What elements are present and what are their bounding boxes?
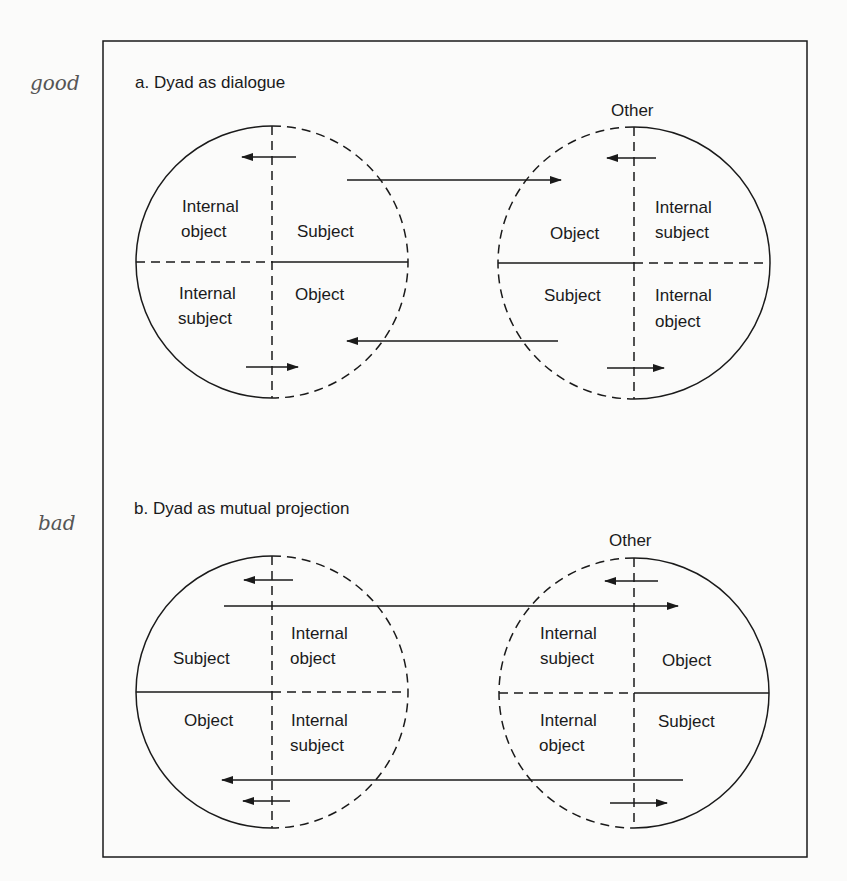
b-right-br: Subject bbox=[658, 712, 715, 731]
a-other-label: Other bbox=[611, 101, 654, 120]
b-right-tl-line2: subject bbox=[540, 649, 594, 668]
panel-a-self-circle bbox=[136, 126, 408, 398]
a-left-bl-line1: Internal bbox=[179, 284, 236, 303]
panel-b-self-circle bbox=[136, 556, 408, 828]
b-left-br-line1: Internal bbox=[291, 711, 348, 730]
a-left-tr: Subject bbox=[297, 222, 354, 241]
b-left-tl: Subject bbox=[173, 649, 230, 668]
a-right-bl: Subject bbox=[544, 286, 601, 305]
a-right-br-line2: object bbox=[655, 312, 701, 331]
b-left-br-line2: subject bbox=[290, 736, 344, 755]
a-right-br-line1: Internal bbox=[655, 286, 712, 305]
a-right-tr-line2: subject bbox=[655, 223, 709, 242]
a-left-tl-line1: Internal bbox=[182, 197, 239, 216]
a-left-br: Object bbox=[295, 285, 344, 304]
panel-a-title: a. Dyad as dialogue bbox=[135, 73, 285, 92]
a-right-tr-line1: Internal bbox=[655, 198, 712, 217]
a-left-bl-line2: subject bbox=[178, 309, 232, 328]
b-right-tl-line1: Internal bbox=[540, 624, 597, 643]
panel-b-title: b. Dyad as mutual projection bbox=[134, 499, 349, 518]
panel-a-other-circle bbox=[498, 127, 770, 399]
b-left-tr-line1: Internal bbox=[291, 624, 348, 643]
b-right-bl-line1: Internal bbox=[540, 711, 597, 730]
margin-note-bad: bad bbox=[38, 511, 76, 535]
margin-note-good: good bbox=[30, 71, 80, 95]
dyad-diagram: good bad a. Dyad as dialogue Internal ob… bbox=[0, 0, 847, 881]
a-right-tl: Object bbox=[550, 224, 599, 243]
b-left-tr-line2: object bbox=[290, 649, 336, 668]
panel-b-other-circle bbox=[499, 558, 769, 828]
panel-a: a. Dyad as dialogue Internal object Subj… bbox=[135, 73, 770, 399]
figure-frame bbox=[103, 41, 807, 857]
b-other-label: Other bbox=[609, 531, 652, 550]
a-left-tl-line2: object bbox=[181, 222, 227, 241]
panel-b: b. Dyad as mutual projection Subject Int… bbox=[134, 499, 769, 828]
b-right-bl-line2: object bbox=[539, 736, 585, 755]
b-right-tr: Object bbox=[662, 651, 711, 670]
b-left-bl: Object bbox=[184, 711, 233, 730]
panel-a-exchange-arrows bbox=[347, 180, 561, 341]
